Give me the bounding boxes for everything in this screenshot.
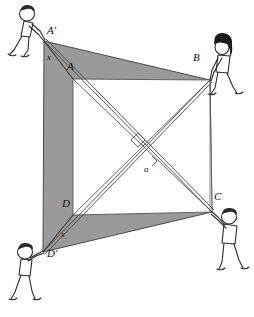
label-point-C: C <box>214 191 221 202</box>
person-top-right <box>208 33 243 95</box>
person-top-left <box>8 5 45 57</box>
legs-top-left <box>10 36 29 56</box>
foot-left-bottom-left <box>9 298 17 300</box>
torso-top-left <box>21 21 33 37</box>
label-segment-x-top: x <box>47 53 51 62</box>
foot-left-top-left <box>8 54 16 56</box>
figure-container: A' A B C D D' x x a <box>0 0 254 317</box>
foot-left-bottom-right <box>217 268 225 270</box>
label-segment-x-bottom: x <box>61 230 65 239</box>
legs-bottom-right <box>219 243 243 269</box>
label-point-A: A <box>67 61 74 72</box>
label-point-D-prime: D' <box>47 248 57 259</box>
label-point-D: D <box>62 198 70 209</box>
label-point-B: B <box>193 52 200 63</box>
torso-bottom-left <box>19 259 32 276</box>
person-bottom-left <box>9 243 44 300</box>
geometry-figure <box>0 0 254 317</box>
person-bottom-right <box>211 208 249 270</box>
legs-bottom-left <box>11 275 35 299</box>
label-point-A-prime: A' <box>47 25 56 36</box>
label-angle-alpha: a <box>144 165 149 174</box>
arm-top-left <box>32 24 45 40</box>
legs-top-right <box>211 72 237 94</box>
